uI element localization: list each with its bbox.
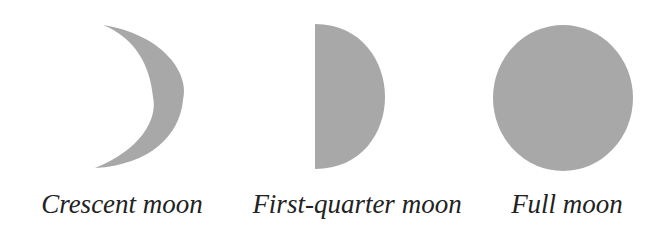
first-quarter-moon-label: First-quarter moon — [246, 188, 468, 220]
crescent-moon-shape — [95, 25, 184, 168]
full-moon-label: Full moon — [496, 188, 638, 220]
full-moon-shape — [493, 25, 633, 171]
crescent-moon-label: Crescent moon — [30, 188, 214, 220]
first-quarter-moon-shape — [315, 24, 385, 169]
